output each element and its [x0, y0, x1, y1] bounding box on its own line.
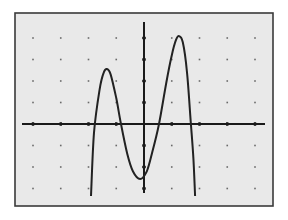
grid-dot — [60, 166, 62, 168]
grid-dot — [199, 166, 201, 168]
grid-dot — [88, 80, 90, 82]
grid-dot — [199, 102, 201, 104]
x-tick — [226, 122, 228, 126]
grid-dot — [60, 59, 62, 61]
grid-dot — [171, 102, 173, 104]
y-tick — [142, 187, 146, 189]
grid-dot — [171, 80, 173, 82]
grid-dot — [171, 188, 173, 190]
grid-dot — [226, 37, 228, 39]
grid-dot — [60, 145, 62, 147]
grid-dot — [32, 145, 34, 147]
x-tick — [115, 122, 117, 126]
grid-dot — [88, 166, 90, 168]
grid-dot — [88, 102, 90, 104]
y-tick — [142, 101, 146, 103]
grid-dot — [32, 59, 34, 61]
y-tick — [142, 58, 146, 60]
grid-dot — [199, 37, 201, 39]
grid-dot — [254, 188, 256, 190]
grid-dot — [226, 145, 228, 147]
x-tick — [60, 122, 62, 126]
grid-dot — [115, 188, 117, 190]
y-tick — [142, 80, 146, 82]
grid-dot — [199, 80, 201, 82]
grid-dot — [254, 59, 256, 61]
grid-dot — [88, 37, 90, 39]
grid-dot — [254, 80, 256, 82]
grid-dot — [88, 188, 90, 190]
grid-dot — [254, 102, 256, 104]
grid-dot — [32, 166, 34, 168]
grid-dot — [254, 166, 256, 168]
grid-dot — [254, 145, 256, 147]
grid-dot — [60, 37, 62, 39]
grid-dot — [254, 37, 256, 39]
grid-dot — [199, 59, 201, 61]
grid-dot — [226, 59, 228, 61]
grid-dot — [226, 80, 228, 82]
grid-dot — [60, 188, 62, 190]
grid-dot — [32, 102, 34, 104]
grid-dot — [199, 188, 201, 190]
grid-dot — [60, 80, 62, 82]
grid-dot — [88, 59, 90, 61]
grid-dot — [115, 80, 117, 82]
grid-dot — [88, 145, 90, 147]
grid-dot — [115, 166, 117, 168]
graph-screen — [0, 0, 288, 220]
grid-dot — [32, 80, 34, 82]
grid-dot — [171, 37, 173, 39]
grid-dot — [32, 188, 34, 190]
y-tick — [142, 37, 146, 39]
x-tick — [254, 122, 256, 126]
function-plot — [0, 0, 288, 220]
grid-dot — [226, 188, 228, 190]
grid-dot — [171, 166, 173, 168]
grid-dot — [115, 37, 117, 39]
grid-dot — [226, 166, 228, 168]
x-tick — [32, 122, 34, 126]
y-tick — [142, 144, 146, 146]
x-tick — [171, 122, 173, 126]
grid-dot — [199, 145, 201, 147]
grid-dot — [60, 102, 62, 104]
x-tick — [198, 122, 200, 126]
grid-dot — [32, 37, 34, 39]
grid-dot — [171, 145, 173, 147]
grid-dot — [226, 102, 228, 104]
grid-dot — [115, 145, 117, 147]
x-tick — [87, 122, 89, 126]
grid-dot — [115, 59, 117, 61]
y-tick — [142, 166, 146, 168]
